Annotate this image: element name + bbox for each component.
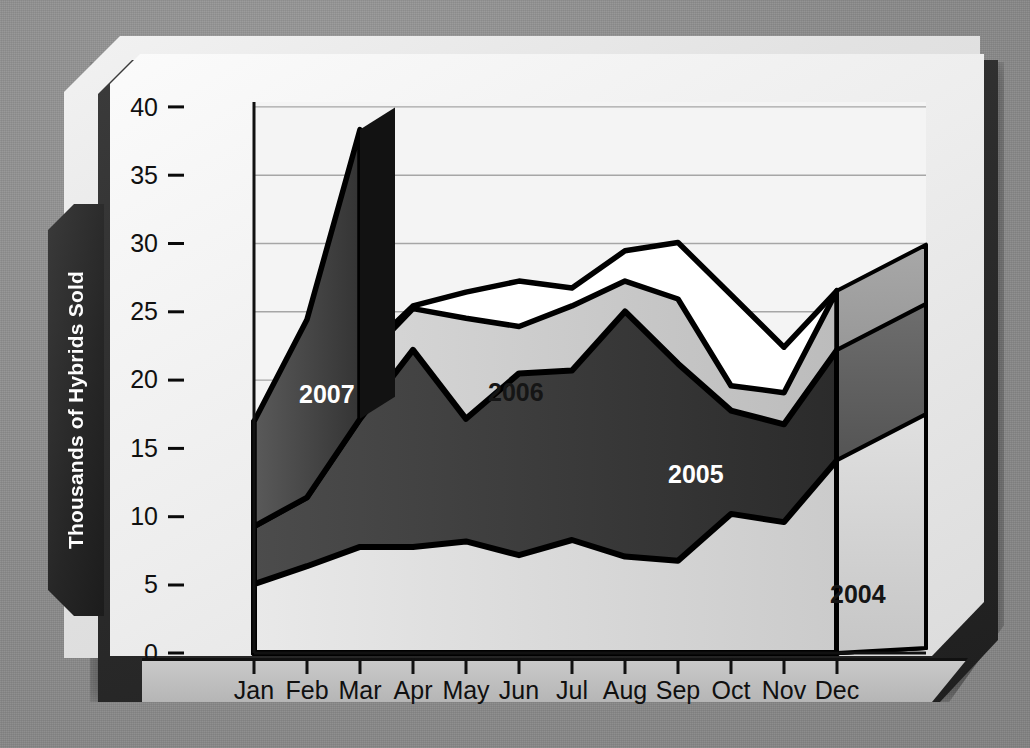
y-tick-5: 5: [104, 570, 158, 599]
plot-area: 40 35 30 25 20 15 10 5 0 2: [166, 88, 976, 684]
y-tick-25: 25: [104, 297, 158, 326]
series-label-2006: 2006: [488, 378, 544, 407]
y-tick-10: 10: [104, 502, 158, 531]
y-axis-label-tab: Thousands of Hybrids Sold: [48, 204, 104, 616]
y-axis-label: Thousands of Hybrids Sold: [64, 271, 88, 549]
y-tick-30: 30: [104, 229, 158, 258]
chart-frame: Thousands of Hybrids Sold: [64, 36, 1004, 702]
y-tick-15: 15: [104, 434, 158, 463]
series-label-2007: 2007: [299, 380, 355, 409]
series-label-2004: 2004: [830, 580, 886, 609]
y-tick-35: 35: [104, 161, 158, 190]
series-label-2005: 2005: [668, 460, 724, 489]
y-tick-marks: [162, 88, 202, 684]
y-tick-40: 40: [104, 93, 158, 122]
y-tick-20: 20: [104, 365, 158, 394]
x-tick-dec: Dec: [800, 676, 874, 705]
